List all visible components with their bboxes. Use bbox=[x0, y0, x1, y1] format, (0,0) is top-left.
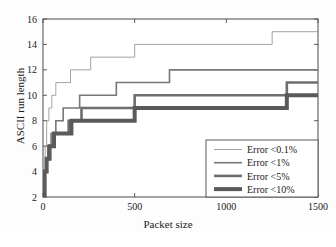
legend-label-3: Error <10% bbox=[247, 184, 295, 195]
y-tick-label: 12 bbox=[27, 64, 37, 75]
y-axis-label: ASCII run length bbox=[14, 36, 26, 176]
y-tick-label: 2 bbox=[32, 192, 37, 203]
y-tick-label: 16 bbox=[27, 14, 37, 25]
figure-container: 246810121416 050010001500 Error <0.1%Err… bbox=[0, 0, 336, 247]
x-axis-label: Packet size bbox=[0, 218, 336, 230]
y-tick-label: 14 bbox=[27, 39, 37, 50]
legend-label-2: Error <5% bbox=[247, 171, 290, 182]
x-tick-label: 0 bbox=[41, 201, 46, 212]
x-tick-label: 1000 bbox=[216, 201, 236, 212]
y-tick-label: 8 bbox=[32, 115, 37, 126]
legend-label-0: Error <0.1% bbox=[247, 144, 297, 155]
caption-strip bbox=[0, 233, 336, 247]
chart-canvas: 246810121416 050010001500 Error <0.1%Err… bbox=[0, 0, 336, 247]
y-tick-label: 6 bbox=[32, 141, 37, 152]
legend-label-1: Error <1% bbox=[247, 157, 290, 168]
x-tick-label: 1500 bbox=[308, 201, 328, 212]
y-tick-label: 10 bbox=[27, 90, 37, 101]
chart-legend[interactable]: Error <0.1%Error <1%Error <5%Error <10% bbox=[206, 140, 318, 197]
y-tick-label: 4 bbox=[32, 166, 37, 177]
x-tick-label: 500 bbox=[127, 201, 142, 212]
